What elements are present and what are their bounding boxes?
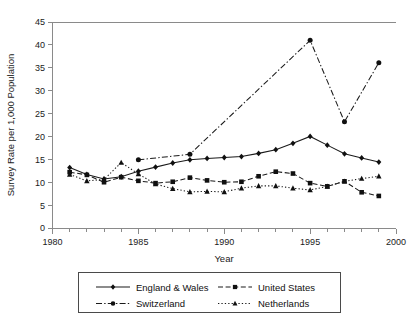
y-tick-label: 20 xyxy=(35,132,45,142)
y-tick-label: 10 xyxy=(35,178,45,188)
x-tick-label: 1995 xyxy=(300,237,320,247)
marker-circle xyxy=(342,119,347,124)
marker-square xyxy=(188,175,193,180)
y-tick-label: 35 xyxy=(35,63,45,73)
marker-circle xyxy=(136,157,141,162)
marker-diamond xyxy=(222,155,227,161)
marker-circle xyxy=(187,152,192,157)
x-tick-label: 1980 xyxy=(42,237,62,247)
series-layer xyxy=(67,38,382,198)
series-path xyxy=(138,40,378,159)
marker-diamond xyxy=(290,140,295,146)
marker-square xyxy=(119,175,124,180)
marker-square xyxy=(233,285,237,289)
marker-square xyxy=(205,178,210,183)
marker-triangle xyxy=(290,185,295,190)
legend-label: United States xyxy=(258,282,315,293)
marker-square xyxy=(377,194,382,199)
x-axis-ticks: 19801985199019952000 xyxy=(42,229,406,248)
y-tick-label: 15 xyxy=(35,155,45,165)
legend-label: Switzerland xyxy=(136,298,185,309)
marker-circle xyxy=(308,38,313,43)
marker-diamond xyxy=(153,164,158,170)
legend-label: England & Wales xyxy=(136,282,209,293)
marker-circle xyxy=(376,60,381,65)
marker-triangle xyxy=(239,185,244,190)
marker-diamond xyxy=(308,134,313,140)
marker-diamond xyxy=(256,150,261,156)
marker-diamond xyxy=(205,156,210,162)
y-tick-label: 45 xyxy=(35,17,45,27)
marker-circle xyxy=(111,301,116,306)
marker-square xyxy=(308,181,313,186)
marker-triangle xyxy=(84,178,89,183)
marker-square xyxy=(291,171,296,176)
marker-triangle xyxy=(119,160,124,165)
marker-diamond xyxy=(239,154,244,160)
marker-diamond xyxy=(376,159,381,165)
marker-diamond xyxy=(187,157,192,163)
y-tick-label: 0 xyxy=(40,223,45,233)
chart-canvas: 051015202530354045 19801985199019952000 … xyxy=(0,0,419,318)
marker-square xyxy=(273,169,278,174)
marker-square xyxy=(359,190,364,195)
x-axis-title: Year xyxy=(214,253,233,264)
x-tick-label: 1985 xyxy=(128,237,148,247)
x-tick-label: 2000 xyxy=(386,237,406,247)
marker-square xyxy=(222,180,227,185)
marker-triangle xyxy=(359,176,364,181)
marker-square xyxy=(170,179,175,184)
marker-triangle xyxy=(273,183,278,188)
marker-diamond xyxy=(273,147,278,153)
marker-triangle xyxy=(222,189,227,194)
y-tick-label: 5 xyxy=(40,201,45,211)
marker-triangle xyxy=(256,183,261,188)
marker-diamond xyxy=(67,165,72,171)
x-tick-label: 1990 xyxy=(214,237,234,247)
y-tick-label: 40 xyxy=(35,40,45,50)
marker-triangle xyxy=(376,173,381,178)
y-axis-title: Survey Rate per 1,000 Population xyxy=(5,54,16,197)
y-tick-label: 30 xyxy=(35,86,45,96)
marker-square xyxy=(136,179,141,184)
series-3 xyxy=(67,160,382,194)
y-axis-ticks: 051015202530354045 xyxy=(35,17,53,233)
series-2 xyxy=(136,38,381,162)
series-0 xyxy=(67,134,381,182)
marker-diamond xyxy=(170,160,175,166)
marker-diamond xyxy=(342,151,347,157)
line-chart: 051015202530354045 19801985199019952000 … xyxy=(0,0,419,318)
y-tick-label: 25 xyxy=(35,109,45,119)
marker-square xyxy=(85,173,90,178)
marker-diamond xyxy=(359,155,364,161)
legend-label: Netherlands xyxy=(258,298,309,309)
marker-diamond xyxy=(325,142,330,148)
marker-square xyxy=(256,174,261,179)
marker-square xyxy=(239,179,244,184)
